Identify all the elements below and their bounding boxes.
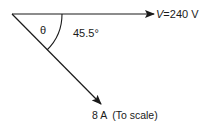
angle-arc [47,14,62,50]
angle-value-label: 45.5° [73,27,99,39]
current-value: 8 A [92,109,107,121]
voltage-label: V=240 V [156,8,199,20]
scale-note: (To scale) [112,109,158,121]
current-label: 8 A(To scale) [92,109,158,121]
phasor-diagram: θ 45.5° V=240 V 8 A(To scale) [0,0,220,130]
theta-label: θ [40,24,46,36]
voltage-value: 240 V [170,8,199,20]
